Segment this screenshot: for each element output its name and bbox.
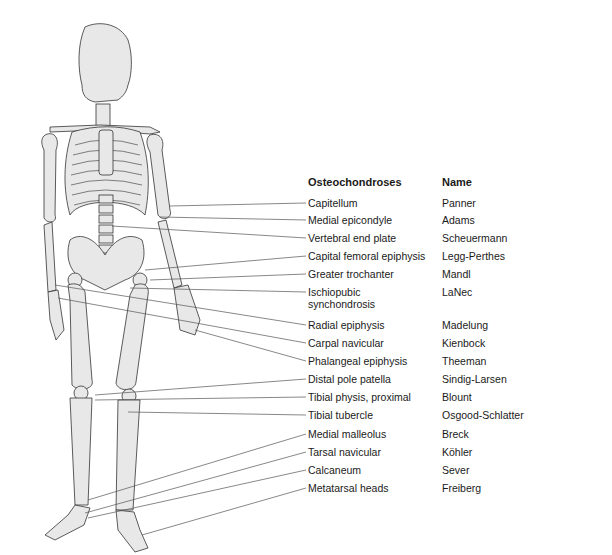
eponym-label: Köhler	[442, 446, 472, 458]
eponym-label: Mandl	[442, 268, 471, 280]
eponym-label: Blount	[442, 391, 472, 403]
site-label: Medial epicondyle	[308, 214, 392, 226]
hand-left	[174, 285, 200, 335]
forearm-right	[44, 222, 56, 292]
eponym-label: Kienbock	[442, 337, 485, 349]
site-label: Tibial physis, proximal	[308, 391, 411, 403]
eponym-label: Breck	[442, 428, 469, 440]
femur-left	[116, 284, 148, 390]
site-label: Vertebral end plate	[308, 232, 396, 244]
femur-right	[68, 284, 92, 389]
foot-right	[45, 505, 90, 540]
eponym-label: Freiberg	[442, 482, 481, 494]
site-label: Distal pole patella	[308, 373, 391, 385]
eponym-label: Theeman	[442, 355, 486, 367]
lumbar-spine	[99, 195, 113, 253]
site-label: Greater trochanter	[308, 268, 394, 280]
eponym-label: Sever	[442, 464, 469, 476]
site-label: Metatarsal heads	[308, 482, 389, 494]
cervical-spine	[96, 104, 110, 126]
eponym-label: Madelung	[442, 319, 488, 331]
header-name: Name	[442, 176, 472, 188]
foot-left	[116, 510, 148, 552]
header-osteochondroses: Osteochondroses	[308, 176, 402, 188]
sternum	[99, 130, 113, 175]
eponym-label: Osgood-Schlatter	[442, 409, 524, 421]
tibia-left	[116, 400, 140, 510]
site-label: Tibial tubercle	[308, 409, 373, 421]
site-label: Tarsal navicular	[308, 446, 381, 458]
eponym-label: Adams	[442, 214, 475, 226]
site-label: Capitellum	[308, 197, 358, 209]
skeleton-bones	[42, 24, 200, 552]
site-label: Medial malleolus	[308, 428, 386, 440]
skull	[79, 24, 131, 102]
hand-right	[48, 290, 64, 340]
humerus-left	[147, 134, 171, 218]
site-label: Ischiopubic synchondrosis	[308, 286, 375, 310]
site-label: Radial epiphysis	[308, 319, 384, 331]
site-label: Capital femoral epiphysis	[308, 250, 425, 262]
site-label: Carpal navicular	[308, 337, 384, 349]
site-label: Calcaneum	[308, 464, 361, 476]
eponym-label: LaNec	[442, 286, 472, 298]
eponym-label: Sindig-Larsen	[442, 373, 507, 385]
eponym-label: Legg-Perthes	[442, 250, 505, 262]
eponym-label: Scheuermann	[442, 232, 507, 244]
site-label: Phalangeal epiphysis	[308, 355, 407, 367]
skeleton-illustration	[0, 0, 612, 555]
tibia-right	[70, 398, 92, 505]
eponym-label: Panner	[442, 197, 476, 209]
humerus-right	[42, 134, 58, 222]
